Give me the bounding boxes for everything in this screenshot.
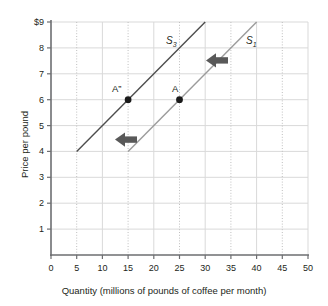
y-tick-label-8: 8	[20, 44, 44, 53]
chart-canvas	[0, 0, 328, 306]
x-tick-label-5: 5	[67, 264, 87, 273]
x-axis-title: Quantity (millions of pounds of coffee p…	[0, 286, 328, 296]
x-tick-label-45: 45	[272, 264, 292, 273]
x-tick-label-0: 0	[41, 264, 61, 273]
series-label-s3-text: S	[166, 35, 173, 46]
y-tick-label-1: 1	[20, 225, 44, 234]
y-tick-label-7: 7	[20, 70, 44, 79]
series-label-s1: S1	[246, 36, 257, 48]
marker-point-a	[176, 96, 183, 103]
marker-point-a-double-prime	[125, 96, 132, 103]
x-tick-label-50: 50	[298, 264, 318, 273]
y-tick-label-9: $9	[20, 18, 44, 27]
x-tick-label-40: 40	[247, 264, 267, 273]
point-label-a: A	[172, 84, 178, 94]
point-label-a-double-prime: A”	[112, 84, 122, 94]
x-tick-label-30: 30	[195, 264, 215, 273]
series-label-s3: S3	[166, 36, 177, 48]
x-tick-label-35: 35	[221, 264, 241, 273]
series-label-s1-text: S	[246, 35, 253, 46]
y-tick-label-2: 2	[20, 199, 44, 208]
x-tick-label-20: 20	[144, 264, 164, 273]
series-label-s1-sub: 1	[253, 41, 257, 48]
supply-shift-chart-figure: $9 8 7 6 5 4 3 2 1 0 5 10 15 20 25 30 35…	[0, 0, 328, 306]
y-axis-title: Price per pound	[20, 111, 30, 178]
x-tick-label-10: 10	[92, 264, 112, 273]
series-label-s3-sub: 3	[173, 41, 177, 48]
y-tick-label-6: 6	[20, 96, 44, 105]
x-tick-label-15: 15	[118, 264, 138, 273]
x-tick-label-25: 25	[170, 264, 190, 273]
